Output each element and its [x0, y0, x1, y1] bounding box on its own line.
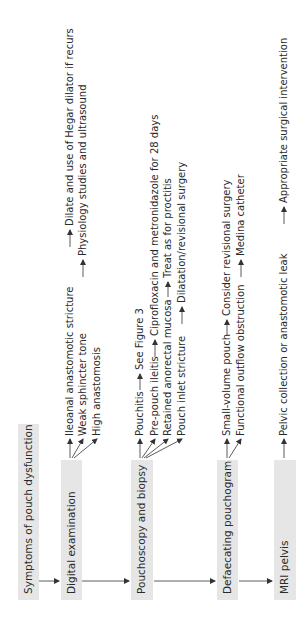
start-label: Symptoms of pouch dysfunction: [22, 424, 34, 594]
action-text: Consider revisional surgery: [221, 180, 232, 317]
finding-pouchitis: Pouchitis: [134, 391, 146, 436]
action-treat-proctitis: Treat as for proctitis: [162, 178, 174, 278]
step-box-mri-pelvis: MRI pelvis: [274, 460, 296, 600]
action-surgical-intervention: Appropriate surgical intervention: [278, 38, 290, 203]
pouch-dysfunction-flowchart: Symptoms of pouch dysfunction Digital ex…: [0, 0, 308, 642]
action-text: Dilate and use of Hegar dilator if recur…: [64, 28, 75, 226]
step-box-defaecating-pouchogram: Defaecating pouchogram: [217, 460, 238, 600]
finding-functional-outflow: Functional outflow obstruction: [235, 285, 247, 436]
action-text: Dilatation/revisional surgery: [176, 162, 187, 303]
action-text: Ciprofloxacin and metronidazole for 28 d…: [149, 115, 160, 336]
finding-text: Small-volume pouch: [221, 334, 232, 436]
action-see-figure-3: See Figure 3: [134, 308, 146, 370]
finding-text: Pelvic collection or anastomotic leak: [278, 254, 289, 436]
finding-pouch-inlet-stricture: Pouch inlet stricture: [176, 336, 188, 436]
step-label: MRI pelvis: [278, 541, 290, 594]
action-text: See Figure 3: [134, 308, 145, 370]
finding-text: Functional outflow obstruction: [235, 285, 246, 436]
finding-text: Pouch inlet stricture: [176, 336, 187, 436]
action-physiology-studies: Physiology studies and ultrasound: [77, 85, 89, 257]
action-text: Treat as for proctitis: [162, 178, 173, 278]
step-label: Defaecating pouchogram: [221, 461, 233, 594]
action-dilatation-revisional: Dilatation/revisional surgery: [176, 162, 188, 303]
finding-text: Retained anorectal mucosa: [162, 299, 173, 436]
action-text: Physiology studies and ultrasound: [77, 85, 88, 257]
finding-text: Weak sphincter tone: [77, 333, 88, 436]
action-dilate: Dilate and use of Hegar dilator if recur…: [64, 28, 76, 226]
action-text: Medina catheter: [235, 174, 246, 256]
finding-text: Pouchitis: [134, 391, 145, 436]
finding-ileoanal-stricture: Ileoanal anastomotic stricture: [64, 287, 76, 436]
step-box-pouchoscopy: Pouchoscopy and biopsy: [131, 460, 153, 600]
action-medina-catheter: Medina catheter: [235, 174, 247, 256]
finding-weak-sphincter: Weak sphincter tone: [77, 333, 89, 436]
action-antibiotics: Ciprofloxacin and metronidazole for 28 d…: [149, 115, 161, 336]
finding-text: High anastomosis: [91, 347, 102, 436]
step-label: Pouchoscopy and biopsy: [135, 465, 147, 594]
step-box-digital-examination: Digital examination: [61, 460, 82, 600]
finding-pelvic-collection: Pelvic collection or anastomotic leak: [278, 254, 290, 436]
step-label: Digital examination: [65, 491, 77, 594]
action-consider-revisional: Consider revisional surgery: [221, 180, 233, 317]
finding-pre-pouch-ileitis: Pre-pouch ileitis: [149, 356, 161, 436]
finding-retained-mucosa: Retained anorectal mucosa: [162, 299, 174, 436]
finding-small-volume-pouch: Small-volume pouch: [221, 334, 233, 436]
finding-text: Ileoanal anastomotic stricture: [64, 287, 75, 436]
start-box-symptoms: Symptoms of pouch dysfunction: [18, 424, 39, 600]
action-text: Appropriate surgical intervention: [278, 38, 289, 203]
finding-text: Pre-pouch ileitis: [149, 356, 160, 436]
finding-high-anastomosis: High anastomosis: [91, 347, 103, 436]
